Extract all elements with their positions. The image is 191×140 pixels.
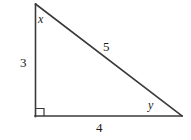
angle-label-y: y	[148, 99, 153, 111]
angle-label-x: x	[38, 13, 43, 25]
right-angle-marker-icon	[36, 109, 44, 117]
triangle-figure: x 3 5 y 4	[0, 0, 191, 140]
side-label-vertical: 3	[20, 56, 27, 69]
triangle-drawing	[0, 0, 191, 140]
side-label-hypotenuse: 5	[103, 40, 110, 53]
side-label-horizontal: 4	[96, 121, 103, 134]
hypotenuse-line	[36, 4, 183, 116]
